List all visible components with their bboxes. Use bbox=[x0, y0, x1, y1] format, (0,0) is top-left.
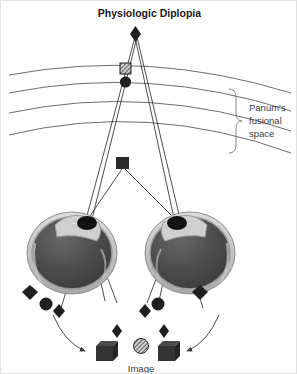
panum-brace bbox=[229, 89, 242, 153]
image-caption: Image bbox=[128, 363, 154, 374]
horopter-circle-marker bbox=[120, 76, 131, 87]
perceived-cube-left bbox=[96, 341, 118, 361]
ray-fixation-right-b bbox=[135, 37, 175, 223]
panum-label-line-3: space bbox=[249, 128, 274, 139]
projection-arrow-left bbox=[53, 315, 85, 351]
retinal-diamond-left-inner bbox=[53, 304, 65, 318]
panum-brace-group: Panum's fusional space bbox=[229, 89, 286, 153]
perceived-cube-right bbox=[158, 341, 180, 361]
perceived-diamond-left bbox=[112, 324, 122, 338]
nodal-point-right bbox=[167, 216, 187, 230]
ray-fixation-right-a bbox=[137, 37, 181, 223]
diagram-canvas: Physiologic Diplopia Panum's fusional sp… bbox=[1, 1, 297, 374]
nodal-point-left bbox=[77, 216, 97, 230]
eye-right bbox=[145, 212, 235, 294]
panum-label-line-2: fusional bbox=[249, 115, 282, 126]
perceived-fused-circle bbox=[134, 339, 149, 354]
retinal-circle-right bbox=[152, 298, 165, 311]
fixation-target-diamond bbox=[130, 26, 141, 42]
retinal-diamond-left-outer bbox=[22, 285, 38, 300]
projection-arrow-right bbox=[187, 315, 219, 351]
eye-left bbox=[27, 212, 117, 294]
ray-near-object-left bbox=[86, 169, 122, 222]
retinal-circle-left bbox=[40, 298, 53, 311]
perceived-image-group bbox=[96, 324, 180, 361]
horopter-curve-1 bbox=[9, 65, 291, 93]
horopter-square-marker bbox=[120, 63, 131, 74]
retinal-diamond-right-inner bbox=[139, 304, 151, 318]
near-object-square bbox=[116, 157, 129, 169]
panum-label-line-1: Panum's bbox=[249, 102, 286, 113]
page-title: Physiologic Diplopia bbox=[98, 7, 201, 19]
physiologic-diplopia-figure: Physiologic Diplopia Panum's fusional sp… bbox=[0, 0, 297, 374]
perceived-diamond-right bbox=[159, 324, 169, 338]
